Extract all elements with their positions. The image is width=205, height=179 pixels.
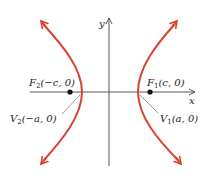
vertex-v2-label: V2(−a, 0) — [10, 113, 57, 126]
focus-f2-point — [67, 89, 72, 94]
focus-f1-label: F1(c, 0) — [146, 77, 185, 90]
hyperbola-right-branch — [138, 25, 178, 160]
y-axis-label: y — [98, 18, 105, 29]
focus-f2-label: F2(−c, 0) — [28, 77, 75, 90]
right-lower-arrow — [176, 158, 181, 164]
hyperbola-diagram: y x F2(−c, 0) F1(c, 0) V2(−a, 0) V1(a, 0… — [0, 0, 205, 179]
vertex-v1-label: V1(a, 0) — [160, 113, 198, 126]
x-axis-label: x — [189, 95, 195, 106]
focus-f1-point — [147, 89, 152, 94]
left-lower-arrow — [41, 158, 46, 164]
left-upper-arrow — [41, 21, 46, 27]
hyperbola-left-branch — [44, 25, 82, 160]
right-upper-arrow — [172, 21, 177, 27]
v1-leader-line — [140, 95, 158, 113]
